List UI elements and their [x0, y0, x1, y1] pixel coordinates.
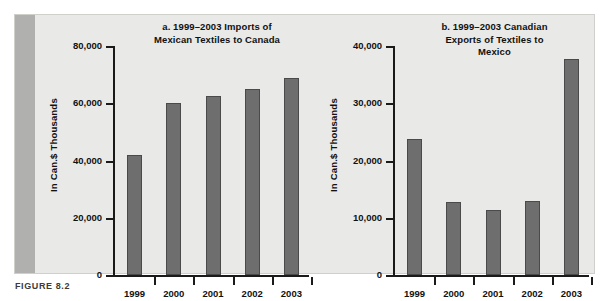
chart-b-y-tick: 10,000 [386, 218, 393, 220]
bar-2002 [245, 89, 260, 275]
bar-2001 [206, 96, 221, 275]
chart-b-title-line-1: b. 1999–2003 Canadian [407, 21, 582, 34]
chart-a-title-line-1: a. 1999–2003 Imports of [127, 21, 307, 34]
chart-a-y-tick: 0 [106, 275, 113, 277]
chart-a-imports: In Can.$ Thousands a. 1999–2003 Imports … [37, 15, 317, 275]
chart-a-x-tick [272, 277, 274, 285]
chart-a-y-tick: 40,000 [106, 161, 113, 163]
chart-a-y-tick-label: 60,000 [73, 97, 102, 108]
x-axis-label-2003: 2003 [551, 288, 591, 299]
bar-2000 [446, 202, 461, 275]
bar-2003 [284, 78, 299, 276]
chart-b-title-line-2: Exports of Textiles to [407, 34, 582, 47]
chart-a-y-tick-label: 0 [97, 269, 102, 280]
bar-2003 [564, 59, 579, 275]
chart-a-x-tick [154, 277, 156, 285]
chart-b-x-tick [473, 277, 475, 285]
x-axis-label-2000: 2000 [434, 288, 474, 299]
chart-a-y-tick: 80,000 [106, 46, 113, 48]
figure-caption: FIGURE 8.2 [15, 281, 70, 291]
chart-b-x-tick [552, 277, 554, 285]
chart-b-y-tick-label: 40,000 [353, 40, 382, 51]
x-axis-label-2003: 2003 [271, 288, 311, 299]
bar-2000 [166, 103, 181, 275]
chart-b-y-tick-label: 0 [377, 269, 382, 280]
bar-2001 [486, 210, 501, 275]
chart-b-exports: In Can.$ Thousands b. 1999–2003 Canadian… [317, 15, 596, 275]
chart-a-y-tick-label: 80,000 [73, 40, 102, 51]
chart-a-y-tick: 60,000 [106, 103, 113, 105]
x-axis-label-2002: 2002 [232, 288, 272, 299]
x-axis-label-2001: 2001 [473, 288, 513, 299]
chart-b-plot-area: 010,00020,00030,00040,000 19992000200120… [393, 46, 589, 277]
figure-root: In Can.$ Thousands a. 1999–2003 Imports … [0, 0, 609, 301]
chart-b-y-tick: 30,000 [386, 103, 393, 105]
chart-a-x-axis-line [113, 275, 309, 277]
chart-b-y-axis-line [393, 46, 395, 277]
chart-a-y-tick: 20,000 [106, 218, 113, 220]
chart-b-x-axis-line [393, 275, 589, 277]
accent-band [15, 15, 35, 273]
x-axis-label-2001: 2001 [193, 288, 233, 299]
bar-2002 [525, 201, 540, 275]
chart-b-y-tick: 40,000 [386, 46, 393, 48]
bar-1999 [407, 139, 422, 275]
chart-a-title-line-2: Mexican Textiles to Canada [127, 34, 307, 47]
chart-b-y-axis-title: In Can.$ Thousands [325, 65, 341, 225]
chart-b-y-tick-label: 10,000 [353, 212, 382, 223]
chart-a-y-axis-line [113, 46, 115, 277]
chart-a-plot-area: 020,00040,00060,00080,000 19992000200120… [113, 46, 309, 277]
chart-b-x-tick [434, 277, 436, 285]
x-axis-label-1999: 1999 [395, 288, 435, 299]
chart-b-y-tick-label: 20,000 [353, 155, 382, 166]
x-axis-label-2000: 2000 [154, 288, 194, 299]
chart-b-y-tick: 20,000 [386, 161, 393, 163]
x-axis-label-1999: 1999 [115, 288, 155, 299]
chart-b-y-tick-label: 30,000 [353, 97, 382, 108]
chart-a-y-tick-label: 40,000 [73, 155, 102, 166]
chart-a-y-axis-title: In Can.$ Thousands [45, 65, 61, 225]
chart-a-y-tick-label: 20,000 [73, 212, 102, 223]
chart-a-x-tick [193, 277, 195, 285]
chart-a-x-tick [311, 277, 313, 285]
chart-b-x-tick [591, 277, 593, 285]
chart-b-y-tick: 0 [386, 275, 393, 277]
chart-a-x-tick [233, 277, 235, 285]
x-axis-label-2002: 2002 [512, 288, 552, 299]
chart-b-x-tick [513, 277, 515, 285]
chart-a-title: a. 1999–2003 Imports of Mexican Textiles… [127, 21, 307, 46]
figure-panel: In Can.$ Thousands a. 1999–2003 Imports … [14, 14, 595, 274]
bar-1999 [127, 155, 142, 275]
